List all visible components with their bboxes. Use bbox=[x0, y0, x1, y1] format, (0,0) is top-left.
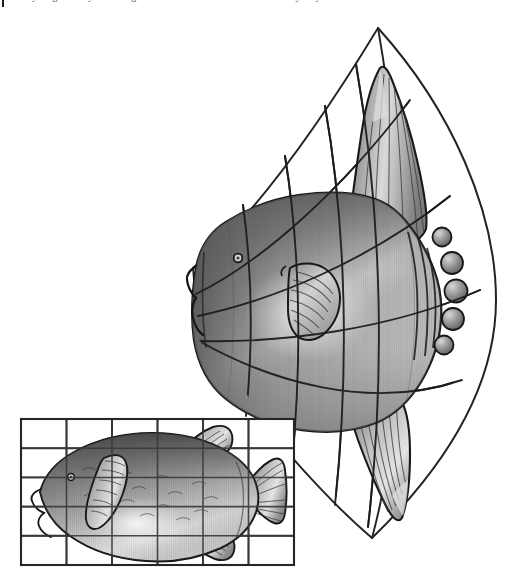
mola-clavus-lobe-2 bbox=[441, 252, 463, 274]
figure-canvas bbox=[0, 0, 517, 581]
mola-clavus-lobe-4 bbox=[442, 308, 464, 330]
mola-clavus-lobe-1 bbox=[433, 228, 452, 247]
inset-panel bbox=[21, 419, 294, 568]
mola-eye bbox=[234, 254, 243, 263]
figure-root: Study of geometry of biological form by … bbox=[0, 0, 517, 581]
mola-clavus-lobe-5 bbox=[435, 336, 454, 355]
